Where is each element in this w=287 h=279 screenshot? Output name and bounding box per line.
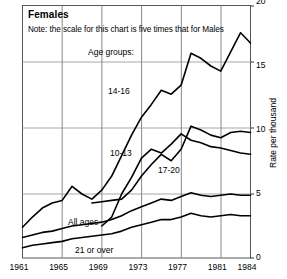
ytick-label-15: 15: [256, 60, 265, 70]
xtick-label-1965: 1965: [49, 262, 68, 272]
series-label-10-13: 10-13: [110, 148, 132, 158]
series-label-17-20: 17-20: [158, 165, 180, 175]
series-label-all-ages: All ages: [68, 217, 98, 227]
chart-plot-area: [0, 0, 287, 279]
xtick-label-1981: 1981: [208, 262, 227, 272]
y-axis-title: Rate per thousand: [268, 98, 278, 168]
series-label-21-or-over: 21 or over: [75, 245, 113, 255]
ytick-label-10: 10: [256, 124, 265, 134]
xtick-label-1984: 1984: [238, 262, 257, 272]
ytick-label-20: 20: [256, 0, 265, 6]
xtick-label-1961: 1961: [10, 262, 29, 272]
xtick-label-1977: 1977: [168, 262, 187, 272]
xtick-label-1969: 1969: [89, 262, 108, 272]
ytick-label-0: 0: [256, 252, 261, 262]
xtick-label-1973: 1973: [128, 262, 147, 272]
plot-frame: [23, 6, 251, 259]
legend-heading: Age groups:: [88, 47, 134, 57]
ytick-label-5: 5: [256, 188, 261, 198]
chart-note: Note: the scale for this chart is five t…: [28, 25, 224, 34]
series-label-14-16: 14-16: [108, 86, 130, 96]
chart-title: Females: [28, 9, 69, 20]
chart-container: Females Note: the scale for this chart i…: [0, 0, 287, 279]
